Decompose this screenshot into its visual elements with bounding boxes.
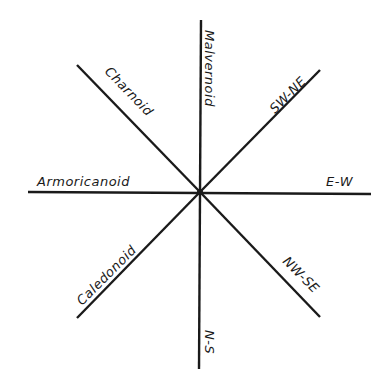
label-n-s: N-S bbox=[202, 330, 217, 354]
line-diag-nw bbox=[77, 65, 200, 192]
label-caledonoid: Caledonoid bbox=[74, 242, 140, 308]
center-point bbox=[197, 189, 203, 195]
label-charnoid: Charnoid bbox=[102, 64, 157, 120]
label-armoricanoid: Armoricanoid bbox=[36, 174, 130, 189]
line-diag-sw bbox=[77, 192, 200, 318]
orientation-rose-diagram: Malvernoid Charnoid SW-NE Armoricanoid E… bbox=[0, 0, 390, 387]
label-sw-ne: SW-NE bbox=[267, 73, 310, 116]
line-diag-se bbox=[200, 192, 320, 317]
label-malvernoid: Malvernoid bbox=[202, 30, 217, 107]
label-nw-se: NW-SE bbox=[280, 254, 323, 297]
label-e-w: E-W bbox=[326, 174, 354, 189]
